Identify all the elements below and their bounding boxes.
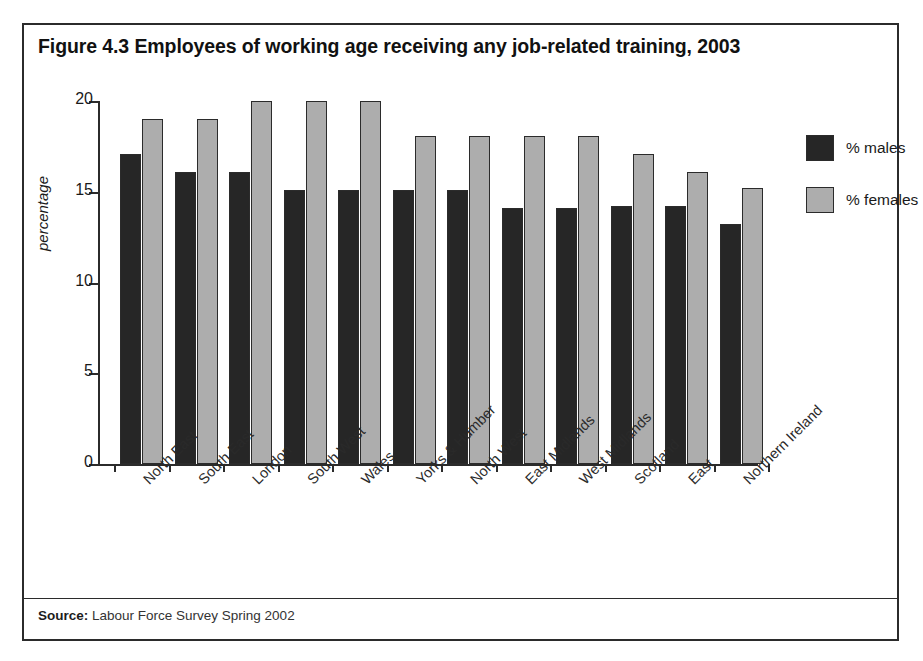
- x-tick-mark: [659, 464, 661, 472]
- page-title: Figure 4.3 Employees of working age rece…: [38, 35, 740, 58]
- bar-female[interactable]: [687, 172, 708, 464]
- y-axis-line: [98, 101, 100, 464]
- source-text: Labour Force Survey Spring 2002: [88, 608, 294, 623]
- source-label: Source:: [38, 608, 88, 623]
- y-axis-title: percentage: [34, 176, 51, 251]
- bar-male[interactable]: [284, 190, 305, 464]
- x-tick-mark: [169, 464, 171, 472]
- x-tick-mark: [332, 464, 334, 472]
- bar-female[interactable]: [142, 119, 163, 464]
- bar-male[interactable]: [720, 224, 741, 464]
- legend-item[interactable]: % females: [806, 187, 918, 213]
- bar-female[interactable]: [742, 188, 763, 464]
- figure-frame: Figure 4.3 Employees of working age rece…: [22, 23, 899, 641]
- legend-swatch-icon: [806, 135, 834, 161]
- x-tick-mark: [114, 464, 116, 472]
- source-note: Source: Labour Force Survey Spring 2002: [38, 608, 295, 623]
- bar-female[interactable]: [415, 136, 436, 465]
- x-tick-mark: [550, 464, 552, 472]
- x-tick-mark: [387, 464, 389, 472]
- bar-female[interactable]: [306, 101, 327, 464]
- chart-legend: % males% females: [806, 135, 918, 239]
- figure-page: Figure 4.3 Employees of working age rece…: [0, 0, 923, 661]
- bar-female[interactable]: [360, 101, 381, 464]
- bar-female[interactable]: [251, 101, 272, 464]
- y-tick-label: 20: [75, 90, 93, 108]
- bar-female[interactable]: [524, 136, 545, 465]
- bar-male[interactable]: [665, 206, 686, 464]
- x-tick-mark: [278, 464, 280, 472]
- x-tick-mark: [441, 464, 443, 472]
- bar-female[interactable]: [197, 119, 218, 464]
- bar-male[interactable]: [393, 190, 414, 464]
- x-tick-mark: [768, 464, 770, 472]
- legend-swatch-icon: [806, 187, 834, 213]
- bar-male[interactable]: [229, 172, 250, 464]
- legend-label: % females: [846, 191, 918, 209]
- x-tick-mark: [605, 464, 607, 472]
- y-tick-label: 10: [75, 272, 93, 290]
- bar-male[interactable]: [175, 172, 196, 464]
- source-divider: [24, 598, 897, 599]
- legend-item[interactable]: % males: [806, 135, 918, 161]
- chart-plot-area: percentage 05101520 North EastSouth East…: [98, 101, 758, 464]
- y-tick-label: 0: [84, 453, 93, 471]
- x-tick-mark: [714, 464, 716, 472]
- bar-male[interactable]: [120, 154, 141, 464]
- y-tick-label: 15: [75, 181, 93, 199]
- legend-label: % males: [846, 139, 905, 157]
- x-tick-mark: [223, 464, 225, 472]
- x-tick-mark: [496, 464, 498, 472]
- y-tick-label: 5: [84, 362, 93, 380]
